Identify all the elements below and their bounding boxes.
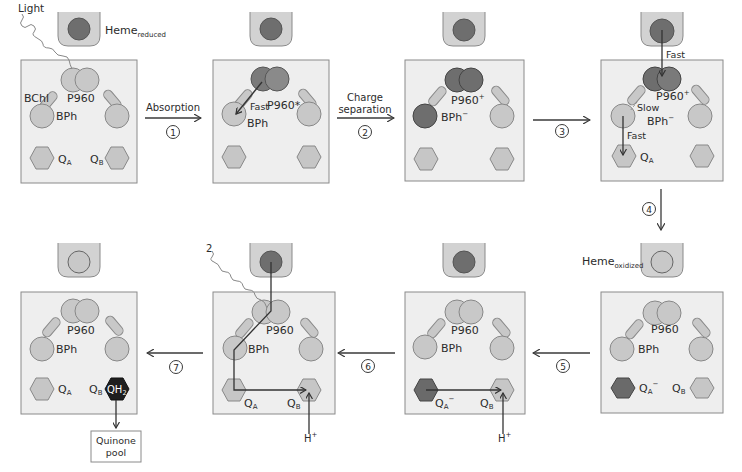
step-4-arrow: 4 [643, 189, 662, 230]
step-6-number: 6 [365, 362, 371, 372]
bph-right [105, 104, 129, 128]
heme-reduced [453, 19, 475, 41]
step-1-number: 1 [170, 128, 176, 138]
panel-3-charge-separated: P960+ BPh− [405, 12, 524, 181]
bph-label: BPh [56, 343, 77, 356]
step-5-arrow: 5 [533, 353, 590, 373]
bph-right [297, 102, 321, 126]
p960-right-oxidized [657, 67, 681, 91]
bph-right [490, 336, 514, 360]
bph-left-reduced [413, 104, 437, 128]
bph-right [105, 337, 129, 361]
quinone-pool-label-line2: pool [106, 447, 126, 458]
p960-right-excited [265, 67, 289, 91]
bph-label: BPh [441, 342, 462, 355]
bph-right [299, 337, 323, 361]
bph-left [30, 104, 54, 128]
step-7-arrow: 7 [147, 353, 203, 374]
p960-label: P960 [651, 323, 679, 336]
step-2-label-line1: Charge [347, 92, 383, 103]
quinone-pool-label-line1: Quinone [96, 435, 136, 446]
bph-right [689, 337, 713, 361]
panel-7-second-photon: 2 P960 BPh QA QB H+ [206, 243, 335, 444]
panel-2-excited: Fast P960* BPh [213, 12, 329, 183]
p960-right [75, 299, 99, 323]
bph-right [490, 104, 514, 128]
step-3-number: 3 [559, 127, 565, 137]
bph-label: BPh [638, 343, 659, 356]
step-1-arrow: Absorption 1 [145, 102, 201, 139]
bph-right [688, 104, 712, 128]
step-1-label: Absorption [146, 102, 200, 113]
panel-8-qh2-release: QH2 P960 BPh QA QB Quinone pool [21, 243, 141, 462]
bph-left [610, 337, 634, 361]
p960-label: P960 [67, 92, 95, 105]
step-2-number: 2 [362, 128, 368, 138]
panel-6-qa-to-qb: P960 BPh QA− QB H+ [405, 243, 525, 444]
heme-oxidized [651, 251, 673, 273]
second-photon-label: 2 [206, 243, 212, 254]
proton-label: H+ [304, 431, 318, 444]
bph-left [30, 337, 54, 361]
p960-right [657, 301, 681, 325]
fast-label-qa: Fast [627, 130, 646, 141]
p960-label: P960 [451, 324, 479, 337]
step-3-arrow: 3 [533, 120, 590, 138]
step-7-number: 7 [173, 363, 179, 373]
p960-right [459, 300, 483, 324]
reaction-center-diagram: Hemereduced Light BChl P960 BPh QA QB Ab… [0, 0, 742, 472]
step-6-arrow: 6 [338, 353, 395, 373]
step-4-number: 4 [646, 205, 652, 215]
step-2-label-line2: separation [338, 104, 391, 115]
p960-label: P960 [266, 324, 294, 337]
step-2-arrow: Charge separation 2 [337, 92, 394, 139]
heme-reduced [68, 18, 90, 40]
heme-reduced [260, 18, 282, 40]
panel-4-heme-reduces-p960: Fast Slow P960+ BPh− Fast QA [601, 12, 723, 181]
bph-label: BPh [56, 110, 77, 123]
light-label: Light [18, 2, 44, 14]
heme-oxidized-label: Hemeoxidized [582, 255, 644, 270]
step-5-number: 5 [560, 362, 566, 372]
bph-label: BPh [248, 343, 269, 356]
slow-label: Slow [637, 102, 659, 113]
fast-label-heme: Fast [666, 49, 685, 60]
panel-5-heme-oxidized: Hemeoxidized P960 BPh QA− QB [582, 243, 723, 413]
p960-excited-label: P960* [267, 99, 301, 112]
bph-label: BPh [247, 117, 268, 130]
heme-reduced [453, 251, 475, 273]
bchl-label: BChl [24, 92, 49, 105]
proton-label: H+ [498, 431, 512, 444]
panel-1-ground-state: Hemereduced Light BChl P960 BPh QA QB [18, 2, 166, 183]
p960-label: P960 [67, 324, 95, 337]
p960-right [75, 68, 99, 92]
bph-left [413, 335, 437, 359]
heme-reduced-label: Hemereduced [105, 24, 166, 39]
heme-oxidized [68, 251, 90, 273]
p960-right-oxidized [459, 68, 483, 92]
